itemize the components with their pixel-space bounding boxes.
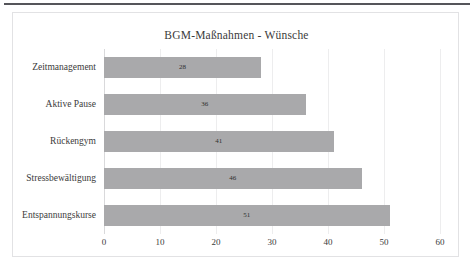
x-tick-label: 50 (380, 237, 389, 247)
x-tick-label: 40 (324, 237, 333, 247)
x-tick-label: 30 (268, 237, 277, 247)
bar-row: Rückengym41 (104, 123, 440, 160)
bar-value-label: 51 (243, 205, 250, 226)
gridline-60 (440, 49, 441, 234)
category-label: Aktive Pause (46, 94, 96, 115)
category-label: Zeitmanagement (32, 57, 96, 78)
category-label: Rückengym (50, 131, 96, 152)
bar-value-label: 36 (201, 94, 208, 115)
x-tick-label: 60 (436, 237, 445, 247)
page-top-rule (4, 3, 470, 5)
bar-value-label: 41 (215, 131, 222, 152)
category-label: Stressbewältigung (26, 168, 96, 189)
x-tick-label: 10 (156, 237, 165, 247)
bar-row: Zeitmanagement28 (104, 49, 440, 86)
bar-row: Aktive Pause36 (104, 86, 440, 123)
x-tick-label: 20 (212, 237, 221, 247)
x-axis: 0102030405060 (104, 237, 440, 253)
chart-title: BGM-Maßnahmen - Wünsche (13, 29, 460, 41)
plot-area: Zeitmanagement28Aktive Pause36Rückengym4… (104, 49, 440, 234)
bar-value-label: 46 (229, 168, 236, 189)
category-label: Entspannungskurse (22, 205, 96, 226)
chart-container: BGM-Maßnahmen - Wünsche Zeitmanagement28… (12, 12, 459, 257)
bar-value-label: 28 (179, 57, 186, 78)
chart-page: BGM-Maßnahmen - Wünsche Zeitmanagement28… (0, 0, 473, 271)
bar-row: Entspannungskurse51 (104, 197, 440, 234)
x-tick-label: 0 (102, 237, 107, 247)
bar-row: Stressbewältigung46 (104, 160, 440, 197)
